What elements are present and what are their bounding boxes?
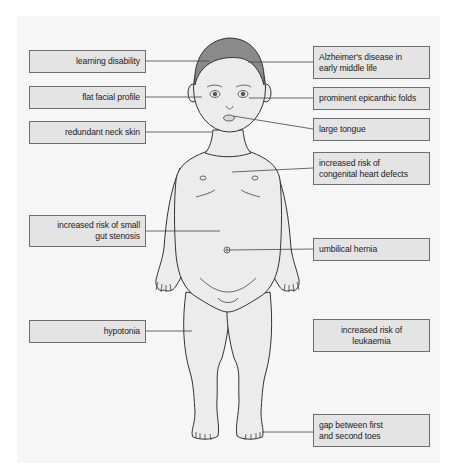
label-alzheimers: Alzheimer's disease in early middle life — [313, 46, 430, 79]
label-toe-gap: gap between first and second toes — [313, 414, 430, 447]
left-leg — [184, 292, 230, 439]
label-learning-disability: learning disability — [29, 50, 146, 73]
label-leukaemia: increased risk of leukaemia — [313, 319, 430, 352]
right-leg — [227, 292, 272, 439]
label-flat-facial-profile: flat facial profile — [29, 86, 146, 109]
label-redundant-neck-skin: redundant neck skin — [29, 121, 146, 144]
label-umbilical-hernia: umbilical hernia — [313, 238, 430, 261]
label-large-tongue: large tongue — [313, 118, 430, 141]
label-heart-defects: increased risk of congenital heart defec… — [313, 152, 430, 185]
neck — [205, 130, 251, 157]
label-epicanthic-folds: prominent epicanthic folds — [313, 87, 430, 110]
label-small-gut-stenosis: increased risk of small gut stenosis — [29, 215, 146, 247]
torso — [175, 152, 282, 312]
label-hypotonia: hypotonia — [29, 320, 146, 343]
